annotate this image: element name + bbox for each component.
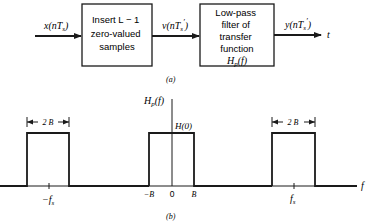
passband-baseband — [149, 133, 272, 186]
tick-label-neg-fs: −fs — [42, 194, 55, 207]
time-axis-label: t — [327, 29, 330, 40]
block-diagram — [35, 4, 321, 66]
output-signal-label: y(nTs′) — [284, 17, 312, 32]
tick-label-zero: 0 — [170, 189, 175, 199]
diagram-canvas: x(nTs) Insert L − 1 zero-valued samples … — [0, 0, 370, 224]
caption-b: (b) — [166, 212, 176, 221]
magnitude-axis-label: Hp(f) — [143, 95, 165, 108]
caption-a: (a) — [166, 75, 176, 84]
tick-label-fs: fs — [290, 193, 296, 206]
passband-fs — [272, 133, 357, 186]
tick-label-neg-b: −B — [144, 190, 154, 199]
lowpass-filter-text: Low-pass filter of transfer function — [215, 7, 258, 54]
h0-label: H(0) — [174, 121, 192, 131]
spectrum-plot — [0, 99, 357, 189]
intermediate-signal-label: v(nTs′) — [162, 18, 189, 33]
bandwidth-label-left: 2 B — [43, 118, 54, 127]
frequency-axis-label: f — [361, 180, 365, 191]
bandwidth-label-right: 2 B — [288, 118, 299, 127]
input-signal-label: x(nTs) — [43, 20, 69, 33]
passband-neg-fs — [0, 133, 149, 186]
tick-label-b: B — [192, 190, 197, 199]
